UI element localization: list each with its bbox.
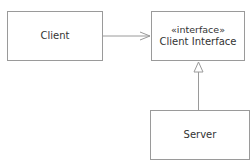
client-label: Client (41, 30, 70, 42)
interface-stereotype: «interface» (171, 24, 225, 36)
client-interface-label: Client Interface (160, 36, 237, 48)
client-class-box[interactable]: Client (7, 11, 103, 61)
client-interface-box[interactable]: «interface» Client Interface (151, 11, 245, 61)
server-label: Server (184, 129, 217, 141)
server-class-box[interactable]: Server (150, 110, 250, 160)
hollow-triangle-arrowhead-icon (194, 62, 203, 72)
